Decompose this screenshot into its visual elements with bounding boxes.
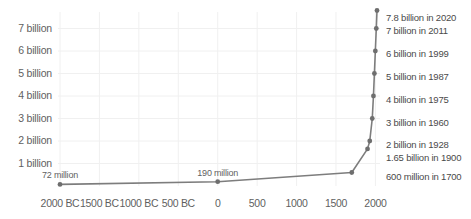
point-annotation: 7.8 billion in 2020 xyxy=(386,13,456,23)
y-axis-tick-label: 5 billion xyxy=(4,68,52,79)
data-point-marker xyxy=(374,26,379,31)
point-annotation: 1.65 billion in 1900 xyxy=(386,153,461,163)
x-axis-tick-label: 0 xyxy=(215,198,221,209)
x-axis-tick-label: 2000 xyxy=(364,198,386,209)
data-point-marker xyxy=(373,49,378,54)
data-point-marker xyxy=(365,146,370,151)
point-annotation: 6 billion in 1999 xyxy=(386,49,449,59)
y-axis-tick-label: 6 billion xyxy=(4,45,52,56)
point-annotation: 2 billion in 1928 xyxy=(386,140,449,150)
data-point-marker xyxy=(370,116,375,121)
data-point-marker xyxy=(58,182,63,187)
point-annotation: 5 billion in 1987 xyxy=(386,72,449,82)
horizontal-gridlines xyxy=(58,29,380,164)
x-axis-tick-label: 2000 BC xyxy=(41,198,80,209)
population-line xyxy=(60,11,377,185)
y-axis-tick-label: 2 billion xyxy=(4,135,52,146)
point-annotation: 190 million xyxy=(197,168,238,178)
y-axis-tick-label: 7 billion xyxy=(4,23,52,34)
x-axis-tick-label: 1000 xyxy=(285,198,307,209)
x-axis-tick-label: 500 BC xyxy=(162,198,195,209)
y-axis-tick-label: 4 billion xyxy=(4,90,52,101)
data-point-marker xyxy=(349,170,354,175)
point-annotation: 600 million in 1700 xyxy=(386,172,461,182)
data-point-marker xyxy=(371,94,376,99)
y-axis-tick-label: 3 billion xyxy=(4,113,52,124)
point-annotation: 3 billion in 1960 xyxy=(386,118,449,128)
y-axis-tick-label: 1 billion xyxy=(4,158,52,169)
population-growth-chart: 1 billion2 billion3 billion4 billion5 bi… xyxy=(0,0,471,219)
data-point-marker xyxy=(375,8,380,13)
x-axis-tick-label: 1000 BC xyxy=(119,198,158,209)
x-axis-tick-label: 1500 BC xyxy=(80,198,119,209)
data-point-marker xyxy=(367,139,372,144)
point-annotation: 72 million xyxy=(42,170,78,180)
x-axis-tick-label: 500 xyxy=(249,198,266,209)
point-annotation: 7 billion in 2011 xyxy=(386,26,448,36)
vertical-gridlines xyxy=(60,12,375,186)
x-axis-tick-label: 1500 xyxy=(325,198,347,209)
data-point-marker xyxy=(215,179,220,184)
point-annotation: 4 billion in 1975 xyxy=(386,95,449,105)
data-point-markers xyxy=(58,8,380,187)
data-point-marker xyxy=(372,71,377,76)
